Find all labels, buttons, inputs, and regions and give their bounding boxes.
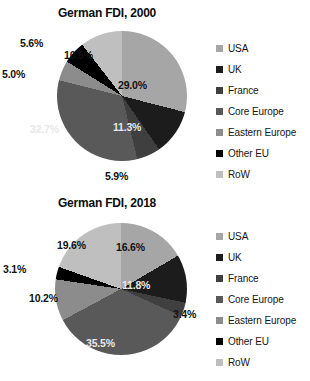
legend-item-label: Other EU: [228, 148, 269, 159]
legend-item-eastern-europe: Eastern Europe: [216, 122, 310, 143]
legend-swatch-icon: [216, 338, 223, 345]
legend-item-label: USA: [228, 43, 248, 54]
pie-slice-label-eastern-europe: 10.2%: [29, 293, 58, 304]
legend-swatch-icon: [216, 87, 223, 94]
legend-item-usa: USA: [216, 38, 310, 59]
legend-item-label: UK: [228, 252, 242, 263]
legend-item-label: Eastern Europe: [228, 315, 296, 326]
legend-item-label: RoW: [228, 357, 250, 368]
legend-swatch-icon: [216, 108, 223, 115]
legend-swatch-icon: [216, 275, 223, 282]
legend-item-other-eu: Other EU: [216, 331, 310, 352]
pie-slice-label-core-europe: 32.7%: [30, 124, 59, 135]
legend-item-label: RoW: [228, 169, 250, 180]
chart-title-2000: German FDI, 2000: [0, 6, 214, 20]
legend-item-label: Core Europe: [228, 294, 284, 305]
pie-slice-label-other-eu: 5.6%: [20, 38, 43, 49]
legend-2000: USAUKFranceCore EuropeEastern EuropeOthe…: [216, 38, 310, 185]
pie-slice-label-row: 10.5%: [64, 50, 93, 61]
legend-swatch-icon: [216, 254, 223, 261]
pie-area-2000: 29.0%11.3%5.9%32.7%5.0%5.6%10.5%: [0, 24, 214, 189]
legend-swatch-icon: [216, 129, 223, 136]
pie-slice-label-usa: 29.0%: [118, 80, 147, 91]
pie-slice-label-row: 19.6%: [57, 240, 86, 251]
legend-swatch-icon: [216, 66, 223, 73]
legend-item-label: UK: [228, 64, 242, 75]
pie-slice-label-core-europe: 35.5%: [86, 338, 115, 349]
legend-item-usa: USA: [216, 226, 310, 247]
legend-swatch-icon: [216, 296, 223, 303]
legend-item-label: Other EU: [228, 336, 269, 347]
legend-swatch-icon: [216, 233, 223, 240]
legend-item-label: USA: [228, 231, 248, 242]
chart-title-2018: German FDI, 2018: [0, 196, 214, 210]
legend-item-label: Core Europe: [228, 106, 284, 117]
legend-item-label: Eastern Europe: [228, 127, 296, 138]
legend-swatch-icon: [216, 359, 223, 366]
legend-item-core-europe: Core Europe: [216, 101, 310, 122]
pie-area-2018: 16.6%11.8%3.4%35.5%10.2%3.1%19.6%: [0, 214, 214, 379]
pie-slice-label-other-eu: 3.1%: [3, 264, 26, 275]
pie-slice-label-eastern-europe: 5.0%: [2, 69, 25, 80]
legend-item-uk: UK: [216, 59, 310, 80]
legend-item-uk: UK: [216, 247, 310, 268]
legend-2018: USAUKFranceCore EuropeEastern EuropeOthe…: [216, 226, 310, 373]
chart-panel-2018: German FDI, 2018 16.6%11.8%3.4%35.5%10.2…: [0, 190, 310, 381]
legend-item-row: RoW: [216, 352, 310, 373]
legend-item-label: France: [228, 85, 259, 96]
legend-item-france: France: [216, 268, 310, 289]
legend-swatch-icon: [216, 45, 223, 52]
legend-swatch-icon: [216, 317, 223, 324]
pie-slice-label-usa: 16.6%: [116, 242, 145, 253]
legend-item-eastern-europe: Eastern Europe: [216, 310, 310, 331]
legend-item-france: France: [216, 80, 310, 101]
legend-item-label: France: [228, 273, 259, 284]
legend-swatch-icon: [216, 150, 223, 157]
legend-swatch-icon: [216, 171, 223, 178]
pie-slice-label-france: 5.9%: [105, 171, 128, 182]
legend-item-row: RoW: [216, 164, 310, 185]
legend-item-other-eu: Other EU: [216, 143, 310, 164]
chart-panel-2000: German FDI, 2000 29.0%11.3%5.9%32.7%5.0%…: [0, 0, 310, 190]
pie-slice-label-uk: 11.8%: [122, 280, 150, 291]
legend-item-core-europe: Core Europe: [216, 289, 310, 310]
pie-slice-label-france: 3.4%: [173, 309, 196, 320]
pie-slice-label-uk: 11.3%: [113, 122, 141, 133]
